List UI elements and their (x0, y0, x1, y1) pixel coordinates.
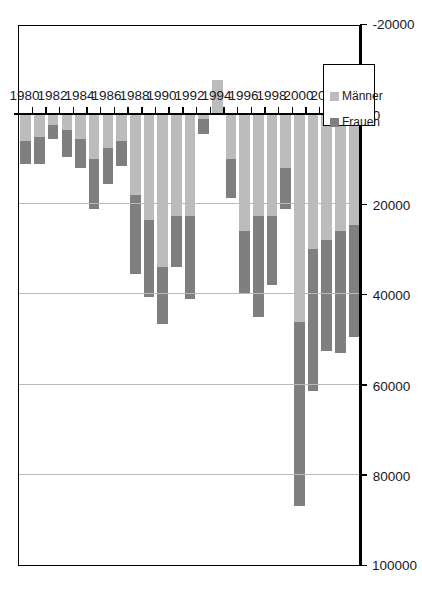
bar-segment-frauen (34, 137, 45, 164)
category-tick (237, 107, 238, 114)
bar-row (211, 26, 224, 565)
bar-segment-maenner (48, 114, 59, 125)
value-axis-label: 40000 (372, 288, 410, 303)
bar-segment-frauen (62, 130, 73, 157)
value-tick-100000 (360, 565, 367, 566)
bar-segment-maenner (280, 114, 291, 168)
category-tick (155, 107, 156, 114)
bar-segment-maenner (239, 114, 250, 231)
bar-row (252, 26, 265, 565)
legend-swatch-icon (330, 118, 339, 127)
chart-page: 100000800006000040000200000-20000 198019… (0, 0, 422, 603)
category-tick (278, 107, 279, 114)
bar-segment-maenner (335, 114, 346, 231)
bar-segment-frauen (253, 216, 264, 317)
bar-rows (19, 26, 359, 565)
category-axis-label-1998: 1998 (256, 88, 286, 103)
bar-row (266, 26, 279, 565)
value-axis-label: -20000 (372, 17, 414, 32)
bar-segment-maenner (349, 114, 360, 224)
bar-segment-frauen (335, 231, 346, 353)
category-tick (86, 107, 87, 114)
category-tick (319, 107, 320, 114)
category-tick (73, 107, 74, 114)
category-axis-label-1986: 1986 (92, 88, 122, 103)
bar-row (170, 26, 183, 565)
value-tick--20000 (360, 24, 367, 25)
bar-row (19, 26, 32, 565)
bar-segment-frauen (103, 148, 114, 184)
bar-row (307, 26, 320, 565)
category-axis-label-1992: 1992 (174, 88, 204, 103)
category-axis-label-1988: 1988 (119, 88, 149, 103)
bar-segment-maenner (308, 114, 319, 249)
category-tick (100, 107, 101, 114)
category-tick (32, 107, 33, 114)
bar-segment-frauen (198, 119, 209, 135)
category-tick (182, 107, 183, 114)
gridline-60000 (19, 384, 359, 385)
rotated-chart-canvas: 100000800006000040000200000-20000 198019… (0, 0, 422, 603)
bar-segment-maenner (157, 114, 168, 267)
bar-segment-maenner (267, 114, 278, 215)
bar-segment-frauen (89, 159, 100, 209)
bar-row (60, 26, 73, 565)
bar-segment-maenner (253, 114, 264, 215)
value-tick-60000 (360, 384, 367, 385)
bar-segment-frauen (321, 240, 332, 350)
bar-segment-frauen (349, 225, 360, 338)
category-axis-label-1982: 1982 (37, 88, 67, 103)
bar-row (101, 26, 114, 565)
value-tick-20000 (360, 204, 367, 205)
value-tick-80000 (360, 474, 367, 475)
category-axis-label-1980: 1980 (10, 88, 40, 103)
category-tick (264, 107, 265, 114)
category-axis-label-1990: 1990 (147, 88, 177, 103)
bar-row (156, 26, 169, 565)
legend: FrauenMänner (323, 64, 375, 126)
bar-row (279, 26, 292, 565)
bar-segment-maenner (89, 114, 100, 159)
category-tick (251, 107, 252, 114)
bar-segment-maenner (185, 114, 196, 215)
bar-row (115, 26, 128, 565)
bar-segment-frauen (226, 159, 237, 197)
bar-row (293, 26, 306, 565)
bar-segment-frauen (185, 216, 196, 299)
legend-label: Frauen (342, 115, 380, 129)
value-axis-label: 20000 (372, 198, 410, 213)
category-tick (223, 107, 224, 114)
category-axis-label-2000: 2000 (283, 88, 313, 103)
bar-row (33, 26, 46, 565)
bar-segment-maenner (103, 114, 114, 148)
category-tick (141, 107, 142, 114)
bar-segment-frauen (20, 141, 31, 164)
category-tick (45, 107, 46, 114)
bar-segment-frauen (130, 195, 141, 274)
bar-row (74, 26, 87, 565)
bar-segment-maenner (20, 114, 31, 141)
category-tick (168, 107, 169, 114)
bar-segment-frauen (75, 139, 86, 168)
category-tick (210, 107, 211, 114)
bar-segment-frauen (116, 141, 127, 166)
gridline-80000 (19, 474, 359, 475)
bar-segment-maenner (130, 114, 141, 195)
bar-segment-frauen (157, 267, 168, 323)
gridline-40000 (19, 294, 359, 295)
bar-row (88, 26, 101, 565)
legend-label: Männer (342, 89, 383, 103)
plot-area (18, 25, 360, 566)
legend-item-männer[interactable]: Männer (330, 89, 383, 103)
value-axis-label: 60000 (372, 378, 410, 393)
category-tick (127, 107, 128, 114)
bar-segment-frauen (48, 125, 59, 139)
gridline-0 (14, 113, 364, 115)
bar-segment-frauen (308, 249, 319, 391)
bar-segment-maenner (34, 114, 45, 137)
bar-segment-frauen (294, 322, 305, 507)
bar-segment-frauen (171, 216, 182, 268)
category-tick (114, 107, 115, 114)
legend-item-frauen[interactable]: Frauen (330, 115, 380, 129)
value-tick-40000 (360, 294, 367, 295)
